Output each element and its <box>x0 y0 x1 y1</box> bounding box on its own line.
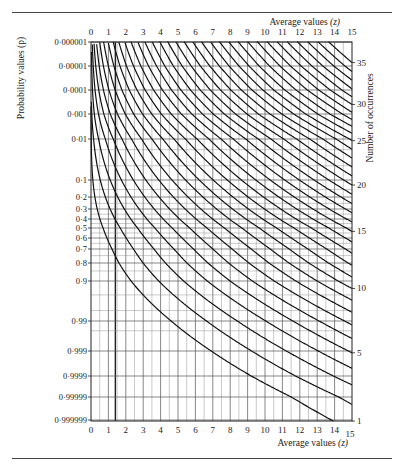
left-y-tick-label: 0·9999 <box>63 371 87 381</box>
top-x-tick-label: 9 <box>245 27 250 37</box>
curve-c-31 <box>287 42 352 97</box>
left-y-tick-label: 0·999 <box>67 346 87 356</box>
curve-c-28 <box>257 42 352 120</box>
bottom-x-tick-label: 11 <box>278 425 287 435</box>
top-x-tick-label: 13 <box>313 27 323 37</box>
bottom-x-tick-label: 9 <box>245 425 250 435</box>
right-tick-label: 20 <box>357 180 367 190</box>
left-y-tick-label: 0·0001 <box>63 85 87 95</box>
top-x-tick-label: 6 <box>193 27 198 37</box>
bottom-axis-title: Average values (z) <box>277 438 348 449</box>
left-y-tick-label: 0·00001 <box>59 61 87 71</box>
bottom-x-tick-label: 1 <box>106 425 111 435</box>
left-y-tick-label: 0·99 <box>71 316 87 326</box>
right-tick-label: 15 <box>357 226 367 236</box>
curve-c-13 <box>131 42 352 254</box>
bottom-x-tick-label: 5 <box>176 425 181 435</box>
top-x-tick-label: 12 <box>295 27 304 37</box>
bottom-x-tick-label: 8 <box>228 425 233 435</box>
bottom-x-tick-label: 3 <box>141 425 146 435</box>
top-x-tick-label: 4 <box>158 27 163 37</box>
left-y-tick-label: 0·8 <box>76 258 87 268</box>
bottom-x-tick-label: 2 <box>124 425 129 435</box>
top-x-tick-label: 5 <box>176 27 181 37</box>
left-y-tick-label: 0·99999 <box>59 392 87 402</box>
poisson-chart: 0011223344556677889910101111121213131414… <box>0 0 394 468</box>
top-x-tick-label: 3 <box>141 27 146 37</box>
top-x-tick-label: 7 <box>211 27 216 37</box>
bottom-x-tick-label: 7 <box>211 425 216 435</box>
bottom-x-tick-label: 14 <box>330 425 340 435</box>
bottom-x-tick-label: 13 <box>313 425 323 435</box>
top-axis-title: Average values (z) <box>269 17 340 28</box>
curve-c-35 <box>329 42 352 63</box>
left-y-tick-label: 0·6 <box>76 233 87 243</box>
curve-c-24 <box>219 42 352 150</box>
right-axis-title: Number of occurrences <box>365 73 375 162</box>
left-y-tick-label: 0·5 <box>76 223 87 233</box>
curve-c-33 <box>308 42 352 80</box>
left-axis-title: Probability values (p) <box>16 37 27 119</box>
left-y-tick-label: 0·7 <box>76 244 87 254</box>
top-x-tick-label: 11 <box>278 27 287 37</box>
top-x-tick-label: 2 <box>124 27 129 37</box>
left-y-tick-label: 0·3 <box>76 204 87 214</box>
right-tick-label: 5 <box>357 348 362 358</box>
bottom-x-tick-label: 0 <box>89 425 94 435</box>
bottom-x-tick-label: 10 <box>261 425 271 435</box>
left-y-tick-label: 0·1 <box>76 175 87 185</box>
top-x-tick-label: 15 <box>348 27 358 37</box>
bottom-x-tick-label: 12 <box>295 425 304 435</box>
right-tick-label: 10 <box>357 283 367 293</box>
left-y-tick-label: 0·9 <box>76 276 87 286</box>
bottom-x-tick-label: 6 <box>193 425 198 435</box>
left-y-tick-label: 0·01 <box>71 134 87 144</box>
top-x-tick-label: 14 <box>330 27 340 37</box>
top-x-tick-label: 0 <box>89 27 94 37</box>
left-y-tick-label: 0·999999 <box>54 415 87 425</box>
left-y-tick-label: 0·001 <box>67 109 87 119</box>
bottom-x-tick-label: 4 <box>158 425 163 435</box>
top-x-tick-label: 8 <box>228 27 233 37</box>
top-x-tick-label: 10 <box>261 27 271 37</box>
curve-c-17 <box>160 42 352 213</box>
grid-lines <box>91 42 352 421</box>
curve-c-29 <box>267 42 352 113</box>
top-x-tick-label: 1 <box>106 27 111 37</box>
left-y-tick-label: 0·2 <box>76 192 87 202</box>
right-tick-label: 35 <box>357 58 367 68</box>
left-y-tick-label: 0·000001 <box>54 37 87 47</box>
right-tick-label: 1 <box>357 416 362 426</box>
